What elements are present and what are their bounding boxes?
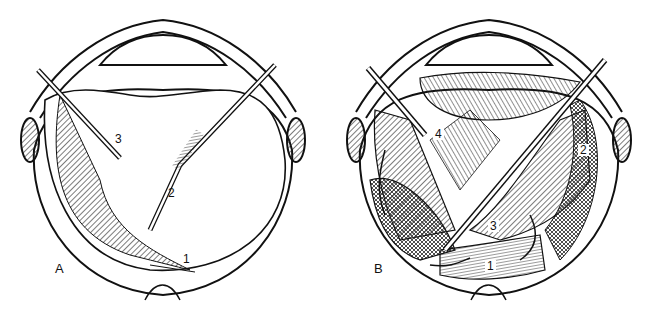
callout-a-2: 2: [168, 187, 175, 199]
panel-a-drawing: [21, 20, 305, 300]
callout-a-3: 3: [115, 133, 122, 145]
figure: A 1 2 3 B 1 2 3 4: [0, 0, 652, 315]
callout-b-1: 1: [485, 260, 496, 272]
callout-b-2: 2: [578, 144, 589, 156]
panel-label-a: A: [55, 262, 64, 275]
callout-b-4: 4: [433, 128, 444, 140]
callout-b-3: 3: [488, 220, 499, 232]
panel-b-drawing: [347, 20, 631, 300]
illustration: [0, 0, 652, 315]
callout-a-1: 1: [183, 253, 190, 265]
panel-label-b: B: [374, 262, 383, 275]
